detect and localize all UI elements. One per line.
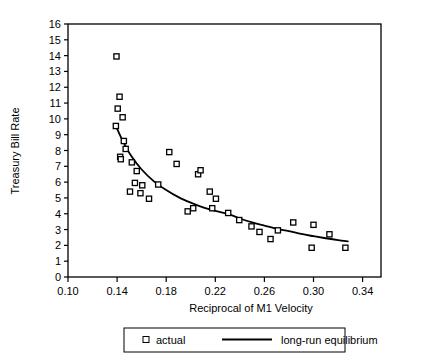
y-tick-label: 10 bbox=[49, 113, 61, 125]
x-tick-label: 0.26 bbox=[254, 285, 275, 297]
data-point-marker bbox=[117, 94, 122, 99]
data-point-marker bbox=[129, 160, 134, 165]
y-tick-label: 2 bbox=[55, 239, 61, 251]
data-point-marker bbox=[134, 168, 139, 173]
y-tick-label: 7 bbox=[55, 160, 61, 172]
data-point-marker bbox=[156, 182, 161, 187]
data-point-marker bbox=[174, 161, 179, 166]
data-point-marker bbox=[207, 189, 212, 194]
x-axis-ticks: 0.100.140.180.220.260.300.34 bbox=[57, 277, 373, 297]
y-tick-label: 5 bbox=[55, 192, 61, 204]
data-point-marker bbox=[210, 206, 215, 211]
data-point-marker bbox=[198, 168, 203, 173]
x-tick-label: 0.30 bbox=[303, 285, 324, 297]
data-point-marker bbox=[191, 206, 196, 211]
y-tick-label: 13 bbox=[49, 65, 61, 77]
y-tick-label: 9 bbox=[55, 129, 61, 141]
y-tick-label: 11 bbox=[50, 97, 61, 109]
data-point-marker bbox=[123, 146, 128, 151]
y-tick-label: 16 bbox=[49, 18, 61, 30]
data-point-marker bbox=[309, 245, 314, 250]
y-tick-label: 8 bbox=[55, 145, 61, 157]
legend-label-equilibrium: long-run equilibrium bbox=[281, 334, 378, 346]
data-point-marker bbox=[167, 149, 172, 154]
y-tick-label: 4 bbox=[55, 208, 61, 220]
data-point-marker bbox=[268, 236, 273, 241]
data-point-marker bbox=[237, 217, 242, 222]
y-tick-label: 15 bbox=[49, 34, 61, 46]
x-axis-title: Reciprocal of M1 Velocity bbox=[189, 302, 313, 314]
data-point-marker bbox=[138, 191, 143, 196]
data-point-marker bbox=[291, 220, 296, 225]
data-point-marker bbox=[113, 123, 118, 128]
actual-data-points bbox=[113, 54, 348, 251]
x-tick-label: 0.14 bbox=[106, 285, 127, 297]
legend: actual long-run equilibrium bbox=[124, 328, 378, 352]
data-point-marker bbox=[120, 115, 125, 120]
legend-marker-actual-icon bbox=[143, 337, 149, 343]
data-point-marker bbox=[249, 224, 254, 229]
data-point-marker bbox=[140, 183, 145, 188]
data-point-marker bbox=[118, 157, 123, 162]
y-tick-label: 14 bbox=[49, 50, 61, 62]
y-tick-label: 12 bbox=[49, 81, 61, 93]
data-point-marker bbox=[185, 209, 190, 214]
x-tick-label: 0.22 bbox=[205, 285, 226, 297]
y-tick-label: 3 bbox=[55, 224, 61, 236]
data-point-marker bbox=[114, 54, 119, 59]
data-point-marker bbox=[343, 245, 348, 250]
y-axis-title: Treasury Bill Rate bbox=[9, 107, 21, 194]
scatter-plot: 012345678910111213141516 0.100.140.180.2… bbox=[0, 0, 434, 362]
data-point-marker bbox=[275, 228, 280, 233]
data-point-marker bbox=[146, 196, 151, 201]
y-tick-label: 6 bbox=[55, 176, 61, 188]
legend-label-actual: actual bbox=[156, 334, 185, 346]
chart-container: 012345678910111213141516 0.100.140.180.2… bbox=[0, 0, 434, 362]
data-point-marker bbox=[132, 180, 137, 185]
data-point-marker bbox=[127, 189, 132, 194]
x-tick-label: 0.18 bbox=[155, 285, 176, 297]
data-point-marker bbox=[121, 138, 126, 143]
data-point-marker bbox=[311, 222, 316, 227]
data-point-marker bbox=[327, 232, 332, 237]
y-tick-label: 0 bbox=[55, 271, 61, 283]
y-axis-ticks: 012345678910111213141516 bbox=[49, 18, 68, 283]
data-point-marker bbox=[257, 229, 262, 234]
data-point-marker bbox=[213, 196, 218, 201]
data-point-marker bbox=[115, 106, 120, 111]
x-tick-label: 0.34 bbox=[352, 285, 373, 297]
x-tick-label: 0.10 bbox=[57, 285, 78, 297]
y-tick-label: 1 bbox=[55, 255, 61, 267]
data-point-marker bbox=[226, 210, 231, 215]
